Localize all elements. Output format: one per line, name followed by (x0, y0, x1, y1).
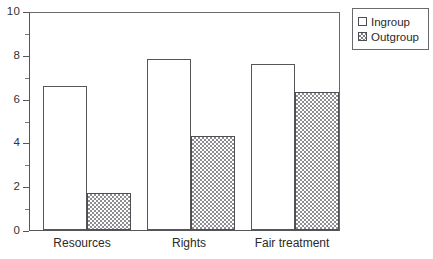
bar-fair-treatment-outgroup (295, 92, 339, 230)
y-axis-label-2: 2 (0, 181, 20, 193)
plot-area (29, 12, 340, 231)
legend: Ingroup Outgroup (352, 8, 429, 50)
y-axis-label-4: 4 (0, 137, 20, 149)
bar-rights-ingroup (147, 59, 191, 230)
y-axis-tick-0 (23, 231, 29, 232)
bar-resources-ingroup (43, 86, 87, 231)
bar-rights-outgroup (191, 136, 235, 230)
legend-label-ingroup: Ingroup (371, 16, 410, 28)
y-axis-label-10: 10 (0, 6, 20, 18)
legend-swatch-ingroup-icon (358, 17, 367, 26)
x-axis-label-resources: Resources (22, 237, 142, 250)
legend-item-outgroup: Outgroup (358, 29, 428, 44)
y-axis-label-6: 6 (0, 94, 20, 106)
y-axis-label-0: 0 (0, 225, 20, 237)
legend-label-outgroup: Outgroup (371, 31, 419, 43)
bar-chart: 10 8 6 4 2 0 Resources Rights Fair treat… (0, 0, 433, 259)
legend-swatch-outgroup-icon (358, 32, 367, 41)
y-axis-label-8: 8 (0, 50, 20, 62)
legend-item-ingroup: Ingroup (358, 14, 428, 29)
bar-resources-outgroup (87, 193, 131, 230)
x-axis-label-fair-treatment: Fair treatment (228, 237, 356, 250)
bar-fair-treatment-ingroup (251, 64, 295, 230)
